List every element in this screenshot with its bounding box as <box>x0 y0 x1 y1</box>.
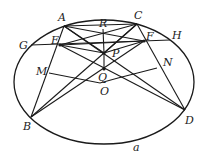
ellipse-label-a: a <box>133 141 140 154</box>
label-F: F <box>145 30 154 43</box>
label-C: C <box>134 9 143 22</box>
label-Q: Q <box>98 71 107 84</box>
segment-FB <box>31 41 144 117</box>
label-D: D <box>184 114 194 127</box>
label-O: O <box>100 85 109 98</box>
label-H: H <box>171 29 182 42</box>
label-B: B <box>22 120 31 133</box>
label-N: N <box>162 56 173 69</box>
label-R: R <box>98 17 107 30</box>
label-M: M <box>35 65 48 78</box>
label-G: G <box>19 39 28 52</box>
label-A: A <box>57 11 66 24</box>
geometry-diagram: ACRGEFHPQOMNBD a <box>0 0 209 162</box>
label-P: P <box>111 47 120 60</box>
label-E: E <box>50 34 59 47</box>
point-labels: ACRGEFHPQOMNBD <box>19 9 194 133</box>
point-P <box>102 51 105 54</box>
